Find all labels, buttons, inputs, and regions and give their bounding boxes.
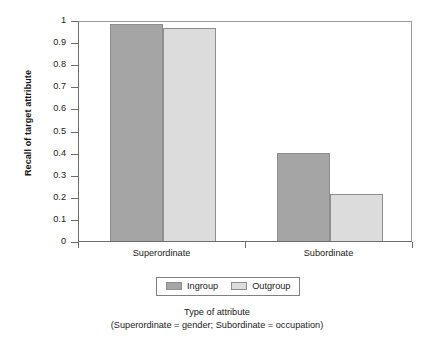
- y-tick-mark: [71, 43, 78, 44]
- y-tick-label: 0.3: [0, 170, 66, 180]
- x-axis-title: Type of attribute: [0, 306, 434, 319]
- chart-legend: IngroupOutgroup: [156, 277, 300, 296]
- bar-outgroup-subordinate: [330, 194, 383, 242]
- x-category-label: Subordinate: [269, 248, 389, 258]
- y-tick-label: 0.5: [0, 126, 66, 136]
- bar-ingroup-subordinate: [277, 153, 330, 241]
- y-tick-mark: [71, 198, 78, 199]
- x-category-label: Superordinate: [102, 248, 222, 258]
- legend-entry-ingroup[interactable]: Ingroup: [166, 281, 218, 291]
- y-tick-label: 0.6: [0, 103, 66, 113]
- legend-label: Outgroup: [252, 281, 290, 291]
- y-tick-mark: [71, 87, 78, 88]
- bar-outgroup-superordinate: [163, 28, 216, 241]
- y-tick-label: 0.1: [0, 214, 66, 224]
- x-axis-title-block: Type of attribute (Superordinate = gende…: [0, 306, 434, 332]
- y-tick-label: 0: [0, 236, 66, 246]
- plot-area: [78, 21, 412, 242]
- y-tick-mark: [71, 220, 78, 221]
- y-tick-label: 0.2: [0, 192, 66, 202]
- x-axis-subtitle: (Superordinate = gender; Subordinate = o…: [0, 319, 434, 332]
- bars-layer: [79, 22, 411, 241]
- x-tick-mark: [78, 242, 79, 248]
- y-tick-mark: [71, 176, 78, 177]
- bar-chart-figure: Recall of target attribute 10.90.80.70.6…: [0, 0, 434, 342]
- legend-swatch-icon: [231, 282, 247, 290]
- y-tick-label: 0.7: [0, 81, 66, 91]
- legend-swatch-icon: [166, 282, 182, 290]
- y-tick-mark: [71, 154, 78, 155]
- y-tick-label: 0.8: [0, 59, 66, 69]
- y-tick-label: 0.9: [0, 37, 66, 47]
- y-tick-label: 0.4: [0, 148, 66, 158]
- x-tick-mark: [245, 242, 246, 248]
- legend-label: Ingroup: [187, 281, 218, 291]
- y-tick-mark: [71, 132, 78, 133]
- y-tick-label: 1: [0, 15, 66, 25]
- y-tick-mark: [71, 65, 78, 66]
- y-tick-mark: [71, 21, 78, 22]
- y-tick-mark: [71, 109, 78, 110]
- bar-ingroup-superordinate: [110, 24, 163, 241]
- legend-entry-outgroup[interactable]: Outgroup: [231, 281, 290, 291]
- x-tick-mark: [412, 242, 413, 248]
- y-tick-mark: [71, 242, 78, 243]
